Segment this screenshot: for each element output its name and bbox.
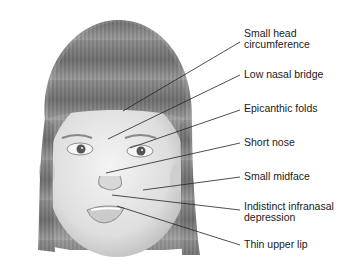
label-small-midface: Small midface: [244, 171, 310, 182]
label-small-head-circumference: Small head circumference: [244, 28, 310, 50]
label-thin-upper-lip: Thin upper lip: [244, 239, 308, 250]
label-indistinct-infranasal-depression: Indistinct infranasal depression: [244, 201, 334, 223]
face: [47, 93, 187, 257]
label-short-nose: Short nose: [244, 137, 295, 148]
hair-bangs: [48, 22, 186, 118]
label-low-nasal-bridge: Low nasal bridge: [244, 69, 323, 80]
label-epicanthic-folds: Epicanthic folds: [244, 103, 318, 114]
diagram-canvas: Small head circumference Low nasal bridg…: [0, 0, 356, 277]
